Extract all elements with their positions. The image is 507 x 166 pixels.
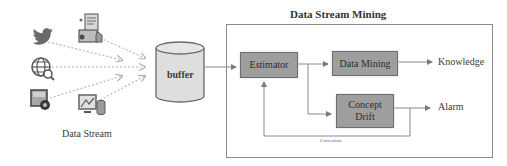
data-stream-label: Data Stream	[62, 128, 112, 139]
estimator-label: Estimator	[250, 59, 289, 71]
photo-settings-icon	[30, 88, 52, 112]
stream-arrows	[48, 38, 145, 100]
data-mining-label: Data Mining	[340, 58, 391, 70]
estimator-node: Estimator	[240, 52, 298, 78]
globe-search-icon	[30, 56, 56, 82]
buffer-label: buffer	[167, 69, 194, 80]
knowledge-output-label: Knowledge	[438, 56, 484, 67]
document-report-icon	[76, 12, 106, 46]
concept-drift-label-line1: Concept	[348, 99, 381, 111]
monitor-chart-database-icon	[78, 92, 106, 118]
data-stream-mining-frame	[226, 24, 493, 158]
correction-label: Correction	[320, 138, 341, 143]
concept-drift-node: Concept Drift	[336, 94, 394, 128]
twitter-bird-icon	[32, 28, 54, 46]
alarm-output-label: Alarm	[438, 101, 464, 112]
concept-drift-label-line2: Drift	[355, 111, 374, 123]
diagram-title: Data Stream Mining	[290, 8, 386, 20]
data-mining-node: Data Mining	[332, 51, 398, 76]
